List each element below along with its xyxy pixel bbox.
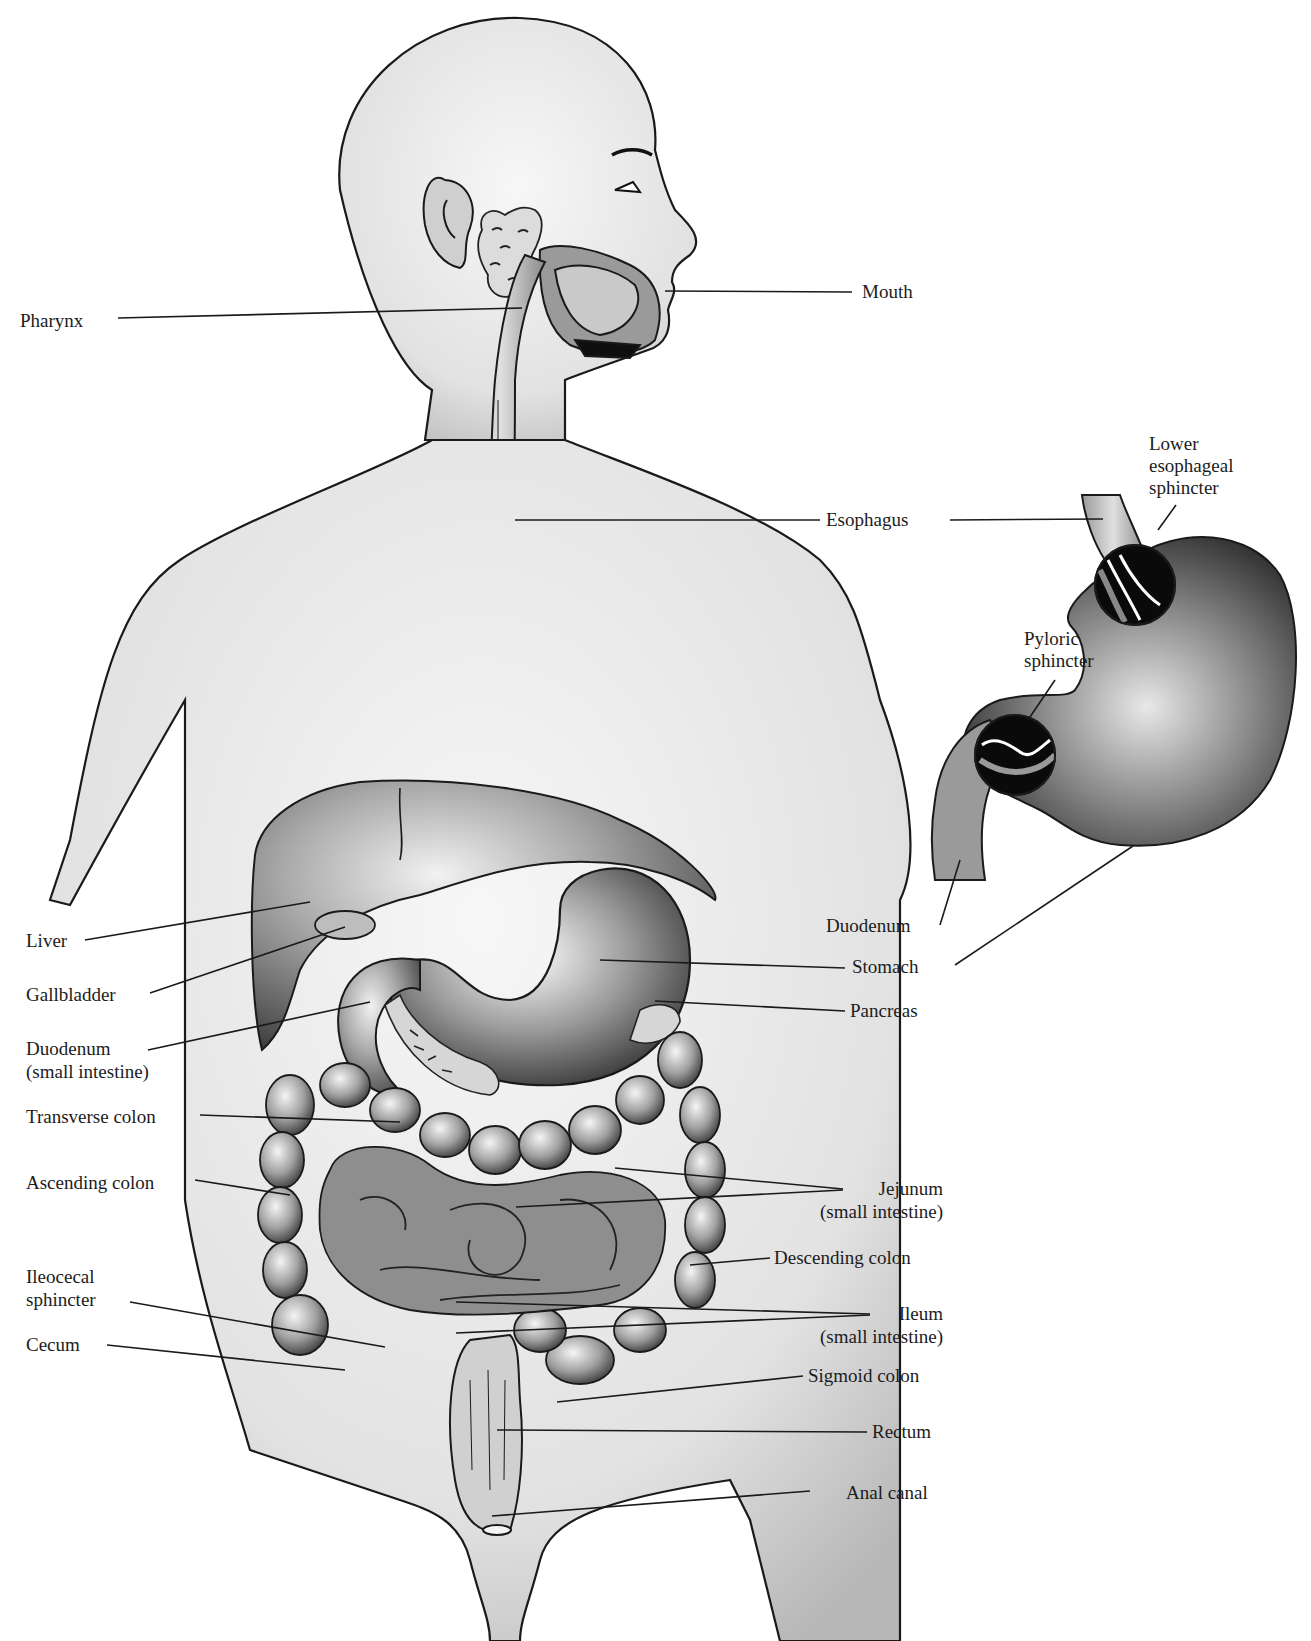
label-jejunum-line2: (small intestine)	[780, 1200, 943, 1223]
label-ascending-colon: Ascending colon	[26, 1171, 154, 1194]
inset-stomach	[932, 495, 1296, 880]
label-anal-canal: Anal canal	[846, 1481, 928, 1504]
label-descending-colon: Descending colon	[774, 1246, 911, 1269]
label-duodenum-inset: Duodenum	[826, 914, 910, 937]
label-transverse-colon: Transverse colon	[26, 1105, 156, 1128]
label-duodenum-line2: (small intestine)	[26, 1060, 149, 1083]
label-ileocecal-line1: Ileocecal	[26, 1265, 96, 1288]
label-sigmoid-colon: Sigmoid colon	[808, 1364, 919, 1387]
label-esophagus: Esophagus	[826, 508, 908, 531]
label-ileocecal-line2: sphincter	[26, 1288, 96, 1311]
label-gallbladder: Gallbladder	[26, 983, 116, 1006]
label-ileum-line2: (small intestine)	[780, 1325, 943, 1348]
label-ileum: Ileum (small intestine)	[780, 1302, 943, 1348]
rectum	[450, 1335, 522, 1535]
label-lower-esophageal-sphincter: Lower esophageal sphincter	[1149, 433, 1233, 499]
label-les-line1: Lower	[1149, 433, 1233, 455]
label-jejunum-line1: Jejunum	[780, 1177, 943, 1200]
label-les-line2: esophageal	[1149, 455, 1233, 477]
label-duodenum-small-intestine: Duodenum (small intestine)	[26, 1037, 149, 1083]
label-pancreas: Pancreas	[850, 999, 918, 1022]
label-mouth: Mouth	[862, 280, 913, 303]
label-les-line3: sphincter	[1149, 477, 1233, 499]
label-pyloric-sphincter: Pyloric sphincter	[1024, 628, 1094, 672]
label-duodenum-line1: Duodenum	[26, 1037, 149, 1060]
digestive-system-illustration	[0, 0, 1311, 1641]
label-stomach: Stomach	[852, 955, 919, 978]
label-cecum: Cecum	[26, 1333, 80, 1356]
label-pyloric-line1: Pyloric	[1024, 628, 1094, 650]
label-pyloric-line2: sphincter	[1024, 650, 1094, 672]
label-liver: Liver	[26, 929, 67, 952]
label-rectum: Rectum	[872, 1420, 931, 1443]
label-ileum-line1: Ileum	[780, 1302, 943, 1325]
label-ileocecal-sphincter: Ileocecal sphincter	[26, 1265, 96, 1311]
label-pharynx: Pharynx	[20, 309, 83, 332]
label-jejunum: Jejunum (small intestine)	[780, 1177, 943, 1223]
